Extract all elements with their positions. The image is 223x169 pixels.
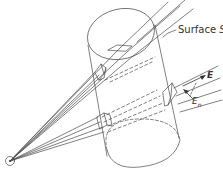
arrowhead-En-icon <box>183 89 189 94</box>
arrowhead-E-icon <box>200 75 206 80</box>
normal-component-label: En <box>192 97 202 108</box>
surface-label-text: Surface <box>178 24 219 35</box>
area-element-left-lower <box>97 113 112 129</box>
field-label-E: E <box>207 71 213 80</box>
cylinder-top-ellipse <box>82 2 160 67</box>
cylinder-left-side <box>88 45 107 156</box>
surface-label: Surface S <box>178 25 223 35</box>
gauss-law-diagram: Surface S E En <box>0 0 223 169</box>
En-subscript: n <box>198 101 202 108</box>
cylinder-bottom-back-arc <box>106 119 180 150</box>
cylinder-right-side <box>155 25 179 138</box>
surface-symbol: S <box>219 24 223 35</box>
cylinder-bottom-front-arc <box>107 140 180 167</box>
